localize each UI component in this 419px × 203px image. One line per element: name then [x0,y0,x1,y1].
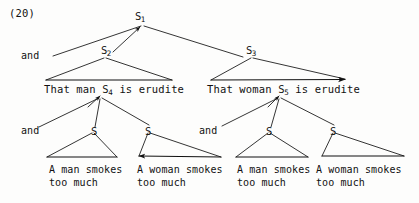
branch-s5-to-and [222,98,278,126]
leaf-2-line1: A woman smokes [137,164,223,175]
node-s-left-2: S [145,126,151,137]
leaf-1-line2: too much [49,177,98,188]
node-s-right-2: S [330,126,336,137]
node-s3-subscript: 3 [252,49,257,58]
triangle-l2-right [150,133,221,157]
node-s5: S5 [278,83,289,95]
triangle-s3-left [211,58,251,80]
branch-s5-to-s-right [281,98,334,125]
node-s-left-2-letter: S [145,125,151,137]
leaf-4-line1: A woman smokes [316,164,402,175]
node-s5-subscript: 5 [284,88,289,97]
triangle-l1-left [47,133,92,157]
node-s1-subscript: 1 [141,15,146,24]
node-s-right-2-letter: S [330,125,336,137]
leaf-3-line1: A man smokes [237,164,310,175]
branch-s1-to-s3 [144,26,243,57]
leaf-2: A woman smokestoo much [137,163,223,189]
leaf-3: A man smokestoo much [237,163,310,189]
branch-s4-to-s-left [95,99,100,127]
conjunction-right-lower: and [199,126,217,136]
node-s3: S3 [246,45,256,58]
figure-canvas: (20) S1 S2 S3 S S S S and and and That m… [0,0,419,203]
node-s-left-1-letter: S [91,125,97,137]
branch-s4-to-s-right [102,98,149,125]
sentence-right-suffix: is erudite [289,83,360,95]
branch-s4-to-and [39,98,99,127]
conjunction-top: and [21,51,39,61]
node-s4: S4 [102,83,113,95]
sentence-right-prefix: That woman [207,83,278,95]
sentence-left-prefix: That man [44,83,102,95]
node-s-left-1: S [91,126,97,137]
node-s2-subscript: 2 [107,49,112,58]
triangle-r1-right [270,133,308,157]
sentence-left-matrix: That man S4 is erudite [44,84,184,97]
example-number: (20) [9,8,35,19]
leaf-4: A woman smokestoo much [316,163,402,189]
branch-s1-to-and [53,26,141,56]
sentence-right-matrix: That woman S5 is erudite [207,84,360,97]
triangle-r2-right [335,133,404,156]
node-s1: S1 [135,11,145,24]
node-s2: S2 [101,45,111,58]
sentence-left-suffix: is erudite [113,83,184,95]
triangle-s2-right [106,58,172,80]
node-s4-subscript: 4 [108,88,113,97]
triangle-s3-base [211,80,345,81]
node-s-right-1-letter: S [266,125,272,137]
leaf-1-line1: A man smokes [49,164,122,175]
leaf-4-line2: too much [316,177,365,188]
leaf-1: A man smokestoo much [49,163,122,189]
triangle-s2-left [46,58,104,80]
conjunction-left-lower: and [21,126,39,136]
arrow-into-s4 [88,96,100,107]
triangle-r1-left [236,133,268,157]
triangle-s3-right [253,58,345,79]
triangle-l1-right [94,133,117,157]
triangle-l2-base [139,156,221,157]
node-s-right-1: S [266,126,272,137]
leaf-3-line2: too much [237,177,286,188]
leaf-2-line2: too much [137,177,186,188]
